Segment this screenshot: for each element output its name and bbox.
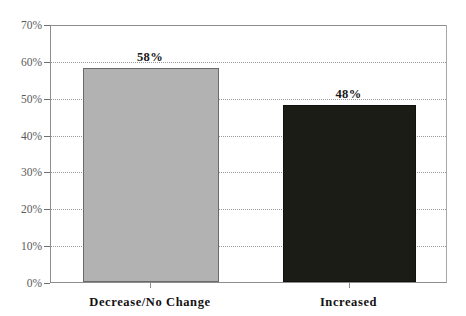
y-axis-tick-label: 70% [0,19,42,31]
category-label-1: Decrease/No Change [40,295,260,310]
category-label-2: Increased [239,295,459,310]
y-axis-tick-label: 10% [0,240,42,252]
data-label-1: 58% [82,50,218,65]
x-axis-tick-mark [150,283,151,288]
data-label-2: 48% [282,87,415,102]
x-axis-tick-mark [349,283,350,288]
bar-chart: 0%10%20%30%40%50%60%70% 58%48% Decrease/… [0,0,466,316]
y-axis-tick-label: 60% [0,56,42,68]
gridline [51,25,446,26]
bar-2 [283,105,416,282]
y-axis-tick-label: 0% [0,277,42,289]
y-axis-tick-label: 20% [0,203,42,215]
y-axis-tick-label: 50% [0,93,42,105]
y-axis-tick-label: 30% [0,166,42,178]
y-axis-tick-label: 40% [0,130,42,142]
y-axis-tick-mark [44,283,50,284]
bar-1 [83,68,219,282]
